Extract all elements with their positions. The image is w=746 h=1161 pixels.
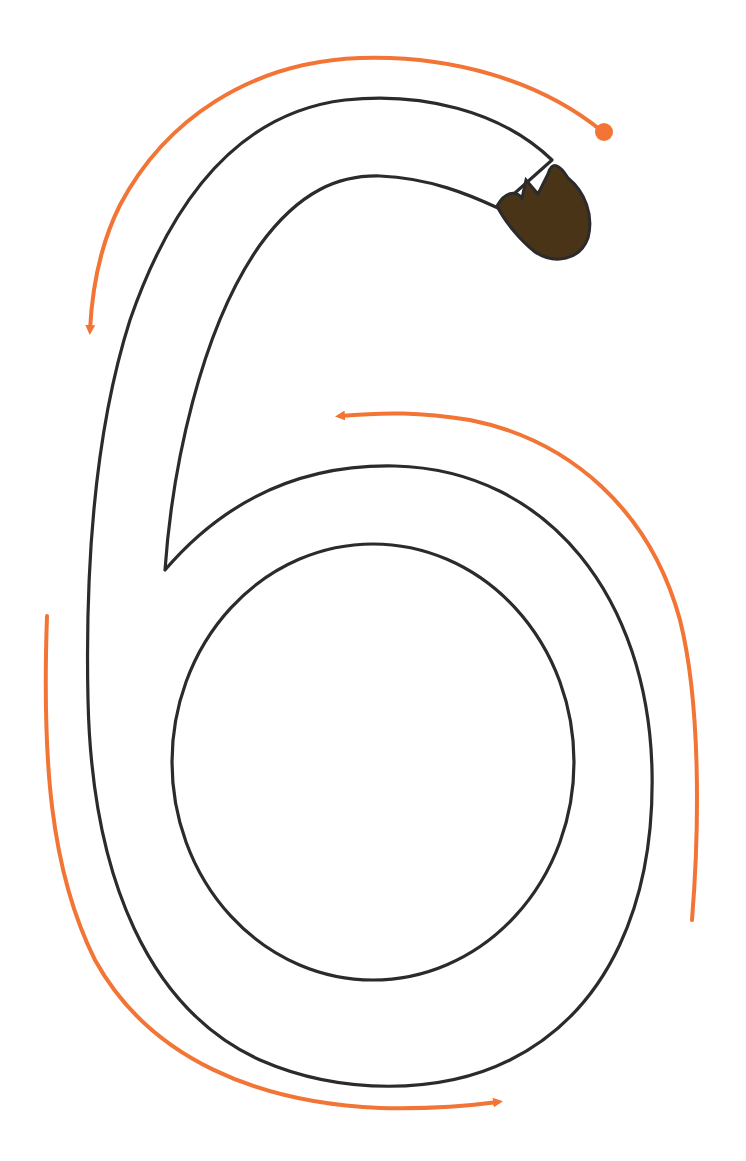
digit-inner-loop-outline [172,544,574,980]
start-blob-icon [497,166,590,259]
start-dot-icon [595,123,613,141]
digit-six-tracing-figure [0,0,746,1161]
tracing-worksheet [0,0,746,1161]
guide-arrow-left-bottom [46,616,498,1108]
guide-arrow-right-loop [340,413,697,920]
